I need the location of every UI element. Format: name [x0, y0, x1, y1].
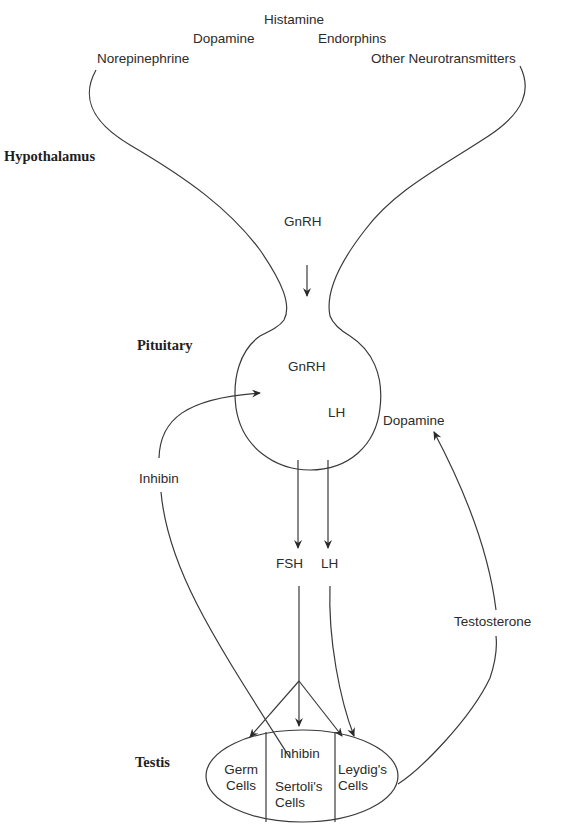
label-inhibin-feedback: Inhibin	[139, 471, 179, 487]
label-dopamine-input: Dopamine	[193, 31, 255, 47]
diagram-canvas	[0, 0, 562, 838]
germ-line1: Germ	[218, 762, 264, 778]
sertoli-line2: Cells	[275, 795, 323, 811]
leydig-line2: Cells	[338, 778, 387, 794]
label-gnrh-pituitary: GnRH	[288, 359, 326, 375]
label-germ-cells: Germ Cells	[218, 762, 264, 793]
label-testosterone: Testosterone	[454, 614, 531, 630]
hypothalamus-right-wall	[329, 66, 525, 336]
pituitary-outline	[235, 336, 381, 470]
label-norepinephrine: Norepinephrine	[97, 51, 189, 67]
label-fsh: FSH	[276, 556, 303, 572]
sertoli-line1: Sertoli's	[275, 779, 323, 795]
hypothalamus-left-wall	[89, 70, 287, 336]
label-lh: LH	[321, 556, 338, 572]
label-gnrh-hypothalamus: GnRH	[284, 214, 322, 230]
leydig-line1: Leydig's	[338, 762, 387, 778]
region-testis: Testis	[135, 754, 170, 771]
germ-line2: Cells	[218, 778, 264, 794]
label-lh-pituitary: LH	[328, 405, 345, 421]
label-sertoli-cells: Sertoli's Cells	[275, 779, 323, 810]
label-endorphins: Endorphins	[318, 31, 386, 47]
region-pituitary: Pituitary	[137, 337, 193, 354]
label-dopamine-feedback: Dopamine	[383, 413, 445, 429]
label-other-neurotransmitters: Other Neurotransmitters	[371, 51, 516, 67]
label-histamine: Histamine	[264, 12, 324, 28]
region-hypothalamus: Hypothalamus	[4, 148, 95, 165]
label-leydig-cells: Leydig's Cells	[338, 762, 387, 793]
label-inhibin-sertoli: Inhibin	[280, 746, 320, 762]
